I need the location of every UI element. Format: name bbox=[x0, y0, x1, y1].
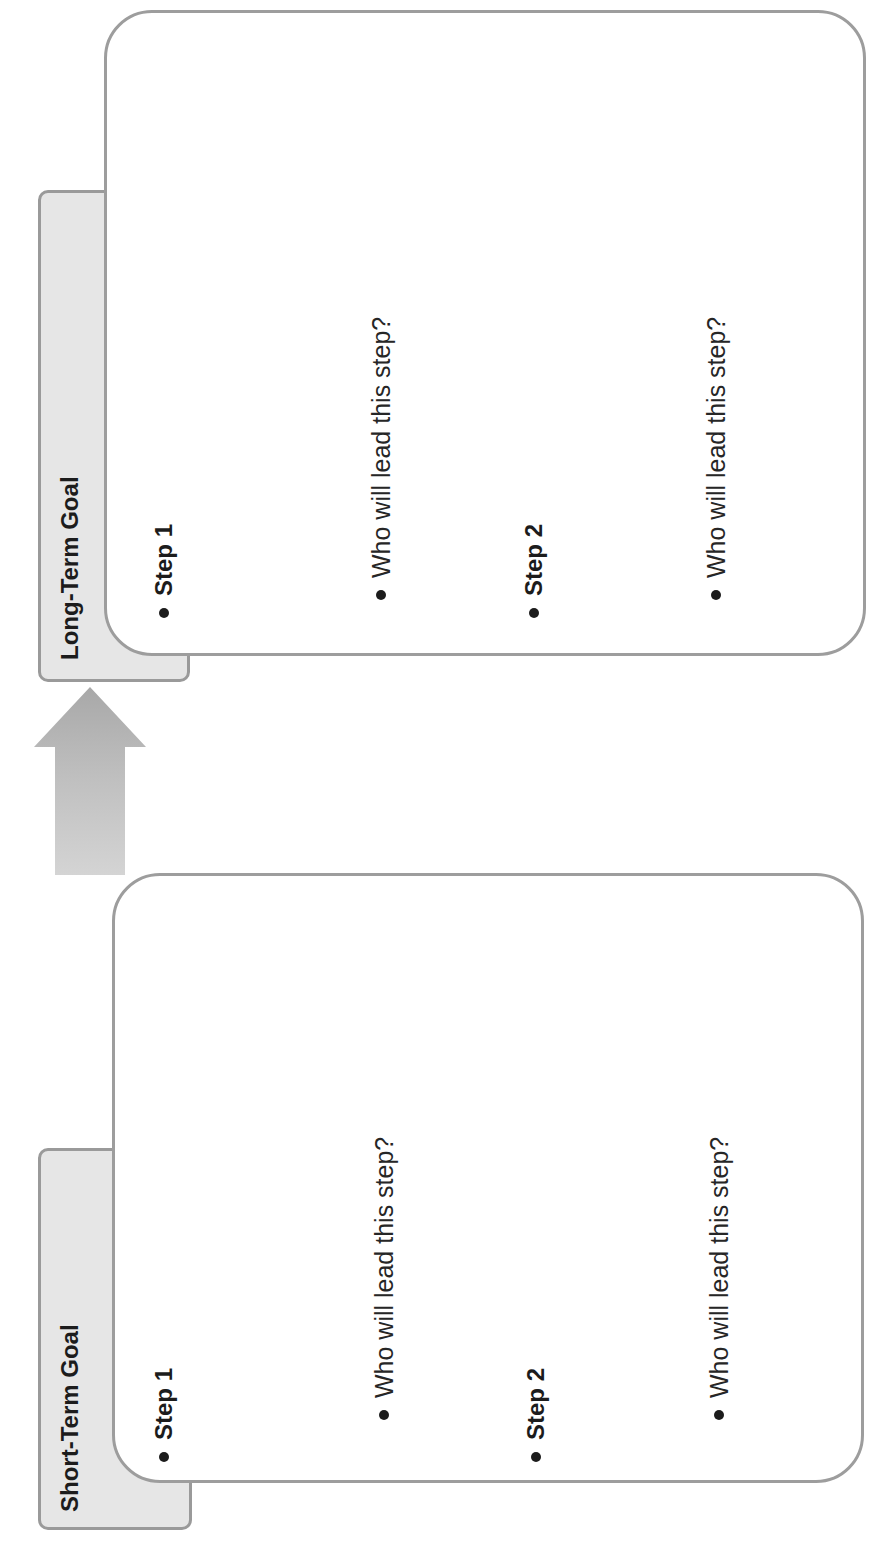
bullet-icon bbox=[711, 590, 721, 600]
step-label: Step 1 bbox=[150, 524, 177, 596]
bullet-icon bbox=[159, 608, 169, 618]
question-label: Who will lead this step? bbox=[705, 1137, 733, 1398]
long-term-step-2-question: Who will lead this step? bbox=[702, 317, 731, 600]
bullet-icon bbox=[531, 1452, 541, 1462]
short-term-step-1-question: Who will lead this step? bbox=[370, 1137, 399, 1420]
step-label: Step 1 bbox=[150, 1368, 177, 1440]
bullet-icon bbox=[529, 608, 539, 618]
question-label: Who will lead this step? bbox=[367, 317, 395, 578]
bullet-icon bbox=[376, 590, 386, 600]
step-label: Step 2 bbox=[522, 1368, 549, 1440]
short-term-step-2-question: Who will lead this step? bbox=[705, 1137, 734, 1420]
short-term-step-2: Step 2 bbox=[522, 1368, 550, 1462]
bullet-icon bbox=[159, 1452, 169, 1462]
long-term-goal-box bbox=[104, 10, 866, 656]
long-term-goal-title: Long-Term Goal bbox=[56, 476, 84, 660]
step-label: Step 2 bbox=[520, 524, 547, 596]
question-label: Who will lead this step? bbox=[702, 317, 730, 578]
long-term-step-1-question: Who will lead this step? bbox=[367, 317, 396, 600]
bullet-icon bbox=[714, 1410, 724, 1420]
short-term-goal-title: Short-Term Goal bbox=[56, 1324, 84, 1512]
up-arrow-icon bbox=[33, 685, 148, 875]
bullet-icon bbox=[379, 1410, 389, 1420]
short-term-step-1: Step 1 bbox=[150, 1368, 178, 1462]
long-term-step-2: Step 2 bbox=[520, 524, 548, 618]
short-term-goal-box bbox=[112, 873, 864, 1483]
long-term-step-1: Step 1 bbox=[150, 524, 178, 618]
question-label: Who will lead this step? bbox=[370, 1137, 398, 1398]
